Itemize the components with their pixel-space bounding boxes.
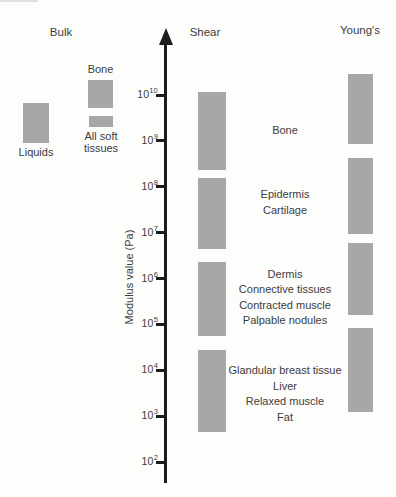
shear-bar-1 [198,92,226,170]
tissue-label-epidermis: Epidermis [261,187,310,203]
tissue-label-palpable-nodules: Palpable nodules [239,313,331,329]
tissue-label-glandular-breast-tissue: Glandular breast tissue [228,363,341,379]
axis-tick-label-1e2: 102 [142,453,158,467]
axis-tick-label-1e6: 106 [142,270,158,284]
shear-bar-4 [198,350,226,432]
tissue-label-liver: Liver [228,379,341,395]
axis-tick-label-1e7: 107 [142,224,158,238]
tissue-label-relaxed-muscle: Relaxed muscle [228,394,341,410]
y-axis-label: Modulus value (Pa) [123,230,135,325]
bulk-bar-bone [88,80,113,108]
axis-tick-label-1e5: 105 [142,315,158,329]
youngs-bar-2 [348,158,373,234]
bar-label-bone: Bone [88,64,114,76]
bar-label-liquids: Liquids [19,147,54,159]
bulk-bar-liquids [23,103,49,143]
youngs-bar-1 [348,74,373,144]
axis-tick-label-1e10: 1010 [137,86,158,100]
scan-artifact [0,0,38,2]
shear-bar-3 [198,262,226,336]
column-header-youngs: Young's [340,24,380,36]
tissue-label-connective-tissues: Connective tissues [239,282,331,298]
bar-label-line-liquids: Liquids [19,147,54,159]
tissue-group-dermis: DermisConnective tissuesContracted muscl… [239,267,331,329]
bar-label-all-soft-tissues: All softtissues [84,131,118,154]
tissue-label-dermis: Dermis [239,267,331,283]
bar-label-line-tissues: tissues [84,143,118,155]
tissue-label-cartilage: Cartilage [261,203,310,219]
shear-bar-2 [198,178,226,249]
axis-tick-label-1e8: 108 [142,178,158,192]
bulk-bar-all-soft-tissues [89,116,113,127]
youngs-bar-3 [348,243,373,315]
axis-tick-label-1e9: 109 [142,132,158,146]
tissue-label-bone: Bone [272,123,298,139]
tissue-label-fat: Fat [228,410,341,426]
bar-label-line-bone: Bone [88,64,114,76]
tissue-label-contracted-muscle: Contracted muscle [239,298,331,314]
column-header-bulk: Bulk [50,26,72,38]
axis-tick-label-1e3: 103 [142,407,158,421]
tissue-group-glandular-breast-tissue: Glandular breast tissueLiverRelaxed musc… [228,363,341,425]
tissue-group-bone: Bone [272,123,298,139]
axis-tick-label-1e4: 104 [142,361,158,375]
tissue-group-epidermis: EpidermisCartilage [261,187,310,218]
column-header-shear: Shear [190,26,221,38]
youngs-bar-4 [348,328,373,412]
modulus-range-chart: Modulus value (Pa) BulkShearYoung's10101… [0,0,396,497]
bar-label-line-all-soft: All soft [84,131,118,143]
